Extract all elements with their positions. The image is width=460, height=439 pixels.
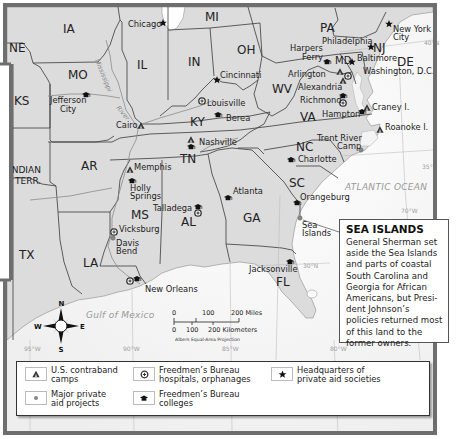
state-label-tn: TN — [179, 152, 196, 166]
svg-text:0: 0 — [172, 326, 176, 334]
sea-islands-callout: SEA ISLANDS General Sherman set aside th… — [339, 219, 449, 343]
svg-text:Washington, D.C.: Washington, D.C. — [363, 66, 435, 76]
compass-e: E — [80, 323, 85, 331]
compass-w: W — [34, 323, 42, 331]
state-label-tx: TX — [18, 248, 35, 262]
svg-text:Albers Equal-Area Projection: Albers Equal-Area Projection — [175, 337, 240, 342]
svg-text:Jacksonville: Jacksonville — [248, 264, 298, 274]
svg-text:200 Kilometers: 200 Kilometers — [208, 326, 258, 334]
state-label-in: IN — [188, 55, 201, 69]
grid-label-90w: 90°W — [123, 345, 140, 352]
legend-label: U.S. contraband camps — [51, 366, 118, 384]
state-label-ky: KY — [190, 115, 205, 129]
svg-text:Alexandria: Alexandria — [298, 82, 342, 92]
state-label-fl: FL — [276, 275, 290, 289]
legend-item-bureau-colleges: Freedmen’s Bureau colleges — [133, 390, 240, 408]
legend-item-bureau-hospitals: Freedmen’s Bureau hospitals, orphanages — [133, 366, 251, 384]
svg-text:Camp: Camp — [337, 141, 361, 151]
svg-text:Ferry: Ferry — [302, 52, 323, 62]
circle-plus-icon — [345, 73, 351, 79]
svg-text:Vicksburg: Vicksburg — [119, 224, 160, 234]
svg-text:Springs: Springs — [130, 191, 161, 201]
circle-plus-icon — [127, 278, 133, 284]
svg-text:Louisville: Louisville — [207, 98, 245, 108]
svg-text:0: 0 — [172, 309, 176, 317]
state-label-indian-terr: INDIAN — [9, 165, 41, 175]
state-label-al: AL — [181, 215, 196, 229]
circle-plus-icon — [195, 210, 201, 216]
city-memphis[interactable]: Memphis — [126, 162, 171, 173]
grid-label-85w: 85°W — [222, 345, 239, 352]
svg-text:100: 100 — [186, 326, 198, 334]
svg-text:Chicago: Chicago — [128, 19, 161, 29]
compass-s: S — [59, 346, 64, 354]
legend-label: Major private aid projects — [51, 390, 106, 408]
svg-text:Memphis: Memphis — [134, 162, 172, 172]
circle-plus-icon — [111, 229, 117, 235]
svg-text:City: City — [60, 104, 76, 114]
dot-icon — [25, 391, 47, 405]
legend-label: Headquarters of private aid societies — [297, 366, 381, 384]
grid-label-70w: 70°W — [401, 207, 418, 214]
city-davis-bend[interactable]: DavisBend — [111, 236, 139, 256]
svg-text:Berea: Berea — [226, 113, 250, 123]
state-label-ms: MS — [131, 208, 149, 222]
state-label-wv: WV — [272, 82, 293, 96]
legend-label: Freedmen’s Bureau hospitals, orphanages — [159, 366, 251, 384]
state-label-va: VA — [300, 110, 316, 124]
legend-item-private-aid-projects: Major private aid projects — [25, 390, 106, 408]
legend-label: Freedmen’s Bureau colleges — [159, 390, 240, 408]
svg-text:New Orleans: New Orleans — [145, 284, 198, 294]
svg-text:Arlington: Arlington — [288, 69, 326, 79]
svg-text:Orangeburg: Orangeburg — [300, 192, 350, 202]
state-label-mi: MI — [205, 10, 219, 24]
state-label-mo: MO — [68, 68, 88, 82]
state-label-indian-terr-2: TERR. — [14, 176, 41, 186]
svg-text:Philadelphia: Philadelphia — [322, 36, 373, 46]
grid-label-30n: 30°N — [303, 262, 318, 269]
svg-text:Hampton: Hampton — [322, 109, 360, 119]
callout-body: General Sherman set aside the Sea Island… — [346, 237, 444, 349]
city-roanoke-island[interactable]: Roanoke I. — [376, 122, 428, 133]
svg-text:Atlanta: Atlanta — [233, 186, 263, 196]
gulf-of-mexico-label: Gulf of Mexico — [86, 310, 155, 320]
callout-title: SEA ISLANDS — [346, 223, 444, 236]
grid-label-80w: 80°W — [330, 345, 347, 352]
grid-label-95w: 95°W — [24, 345, 41, 352]
svg-text:200 Miles: 200 Miles — [231, 309, 263, 317]
city-richmond[interactable]: Richmond — [300, 93, 347, 106]
svg-text:City: City — [393, 32, 409, 42]
state-label-oh: OH — [237, 43, 255, 57]
svg-text:Richmond: Richmond — [300, 95, 342, 105]
triangle-icon — [25, 367, 47, 381]
svg-text:Nashville: Nashville — [199, 137, 237, 147]
state-label-pa: PA — [320, 21, 335, 35]
svg-text:Baltimore: Baltimore — [357, 53, 397, 63]
compass-n: N — [59, 300, 65, 308]
city-hampton[interactable]: Hampton — [322, 109, 366, 119]
state-label-ks: KS — [14, 94, 30, 108]
star-icon — [271, 367, 293, 381]
city-vicksburg[interactable]: Vicksburg — [111, 224, 160, 235]
svg-text:100: 100 — [202, 309, 214, 317]
state-label-ia: IA — [63, 22, 76, 36]
dot-icon — [111, 236, 115, 240]
state-label-ga: GA — [243, 211, 261, 225]
state-label-il: IL — [137, 58, 148, 72]
svg-text:Islands: Islands — [302, 228, 331, 238]
state-label-sc: SC — [289, 176, 305, 190]
svg-text:Cincinnati: Cincinnati — [220, 70, 261, 80]
map-legend: U.S. contraband camps Major private aid … — [16, 361, 430, 416]
mortarboard-icon — [133, 391, 155, 405]
circle-plus-icon — [199, 98, 205, 104]
state-label-la: LA — [83, 256, 99, 270]
state-label-ne: NE — [9, 41, 26, 55]
legend-item-contraband-camps: U.S. contraband camps — [25, 366, 118, 384]
svg-text:Charlotte: Charlotte — [298, 154, 337, 164]
circle-plus-icon — [133, 367, 155, 381]
state-label-md: MD — [335, 55, 352, 66]
state-label-ar: AR — [81, 159, 98, 173]
svg-text:Roanoke I.: Roanoke I. — [385, 122, 428, 132]
city-chicago[interactable]: Chicago — [128, 19, 167, 29]
svg-text:Craney I.: Craney I. — [372, 102, 409, 112]
